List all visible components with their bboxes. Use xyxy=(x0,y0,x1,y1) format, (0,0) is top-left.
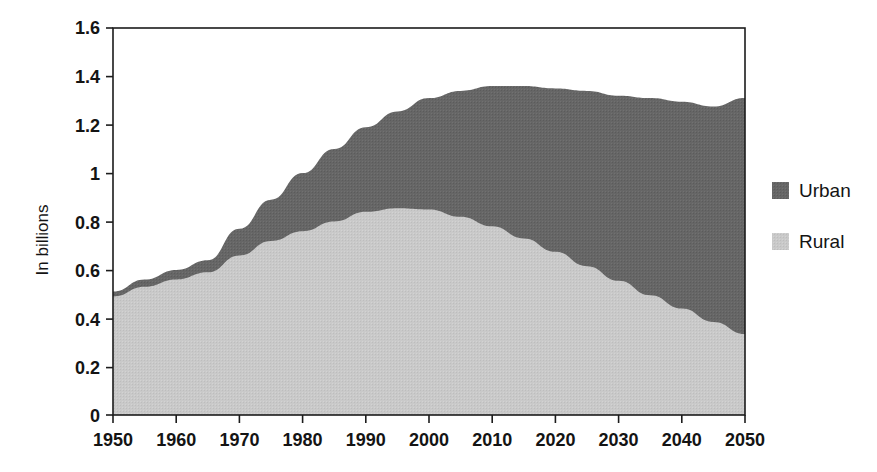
x-tick-label-2030: 2030 xyxy=(599,430,639,450)
x-tick-label-2020: 2020 xyxy=(535,430,575,450)
stacked-area-chart: 1.6 1.4 1.2 1 0.8 0.6 0.4 0.2 0 1950 xyxy=(0,0,877,472)
x-tick-label-1950: 1950 xyxy=(93,430,133,450)
legend-item-rural[interactable]: Rural xyxy=(772,231,844,252)
legend-label-rural: Rural xyxy=(799,231,844,252)
y-tick-label-0-6: 0.6 xyxy=(75,261,100,281)
legend-swatch-urban xyxy=(772,182,789,199)
x-tick-label-1990: 1990 xyxy=(346,430,386,450)
y-tick-label-0-2: 0.2 xyxy=(75,358,100,378)
x-tick-labels: 1950 1960 1970 1980 1990 2000 2010 2020 … xyxy=(93,430,765,450)
x-tick-label-2000: 2000 xyxy=(409,430,449,450)
y-tick-label-1-4: 1.4 xyxy=(75,67,100,87)
y-tick-label-0-4: 0.4 xyxy=(75,310,100,330)
x-tick-label-2050: 2050 xyxy=(725,430,765,450)
y-tick-label-0-8: 0.8 xyxy=(75,213,100,233)
plot-final xyxy=(113,28,745,415)
y-tick-label-1-0: 1 xyxy=(90,164,100,184)
legend-swatch-rural xyxy=(772,233,789,250)
legend-item-urban[interactable]: Urban xyxy=(772,180,851,201)
y-axis-title: In billions xyxy=(33,205,52,276)
chart-figure: 1.6 1.4 1.2 1 0.8 0.6 0.4 0.2 0 1950 xyxy=(0,0,877,472)
x-tick-label-1980: 1980 xyxy=(283,430,323,450)
y-tick-label-1-2: 1.2 xyxy=(75,116,100,136)
x-tick-label-2040: 2040 xyxy=(662,430,702,450)
y-tick-labels: 1.6 1.4 1.2 1 0.8 0.6 0.4 0.2 0 xyxy=(75,18,100,426)
legend-label-urban: Urban xyxy=(799,180,851,201)
x-tick-label-1960: 1960 xyxy=(156,430,196,450)
x-tick-label-1970: 1970 xyxy=(219,430,259,450)
x-tick-label-2010: 2010 xyxy=(472,430,512,450)
y-tick-label-1-6: 1.6 xyxy=(75,18,100,38)
y-tick-label-0: 0 xyxy=(90,406,100,426)
